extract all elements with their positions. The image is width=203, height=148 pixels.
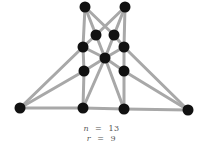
graph-node (15, 103, 26, 114)
graph-node (119, 42, 130, 53)
graph-node (183, 105, 194, 116)
graph-node (78, 103, 89, 114)
graph-node (119, 66, 130, 77)
graph-node (78, 42, 89, 53)
graph-figure: n = 13 r = 9 (0, 0, 203, 148)
graph-node (80, 2, 91, 13)
graph-edge (124, 109, 188, 110)
r-value: 9 (111, 134, 117, 143)
graph-node (120, 2, 131, 13)
equals-sign: = (92, 124, 105, 133)
n-value: 13 (108, 124, 119, 133)
graph-node (100, 53, 111, 64)
graph-node (109, 30, 120, 41)
graph-edge (83, 108, 124, 109)
r-symbol: r (87, 134, 91, 143)
graph-node (119, 104, 130, 115)
equals-sign: = (94, 134, 107, 143)
vertex-count-label: n = 13 (0, 124, 203, 133)
line-count-label: r = 9 (0, 134, 203, 143)
graph-edge (83, 7, 85, 47)
n-symbol: n (83, 124, 89, 133)
graph-node (91, 30, 102, 41)
graph-node (79, 66, 90, 77)
